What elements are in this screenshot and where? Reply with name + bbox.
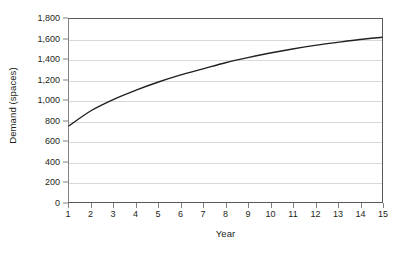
x-axis-tick-mark <box>271 203 272 208</box>
y-axis-tick-label: 600 <box>45 136 60 146</box>
x-axis-tick-mark <box>203 203 204 208</box>
x-axis-tick-mark <box>158 203 159 208</box>
x-axis-tick-label: 9 <box>245 209 250 219</box>
y-axis-tick-label: 1,000 <box>37 95 60 105</box>
x-axis-tick-mark <box>136 203 137 208</box>
chart-figure: Demand (spaces) 02004006008001,0001,2001… <box>0 0 401 254</box>
x-axis-tick-label: 2 <box>88 209 93 219</box>
x-axis-tick-label: 12 <box>310 209 320 219</box>
x-axis-tick-mark <box>226 203 227 208</box>
x-axis-tick-label: 14 <box>355 209 365 219</box>
y-axis-tick-label: 1,400 <box>37 54 60 64</box>
x-axis-tick-mark <box>316 203 317 208</box>
x-axis-tick-label: 5 <box>155 209 160 219</box>
y-axis-tick-label: 1,800 <box>37 13 60 23</box>
x-axis-tick-mark <box>361 203 362 208</box>
demand-curve-svg <box>69 19 382 202</box>
x-axis-tick-label: 10 <box>265 209 275 219</box>
x-axis-title: Year <box>68 228 383 239</box>
y-axis-tick-label: 200 <box>45 177 60 187</box>
x-axis-tick-mark <box>113 203 114 208</box>
x-axis-tick-label: 7 <box>200 209 205 219</box>
x-axis-tick-label: 13 <box>333 209 343 219</box>
y-axis-title-label: Demand (spaces) <box>7 67 18 143</box>
demand-line-series <box>69 19 382 202</box>
demand-curve-path <box>69 37 382 125</box>
x-axis-tick-mark <box>248 203 249 208</box>
x-axis-tick-label: 15 <box>378 209 388 219</box>
y-axis-title: Demand (spaces) <box>0 0 24 210</box>
x-axis-tick-label: 11 <box>288 209 297 219</box>
y-axis-tick-label: 400 <box>45 157 60 167</box>
y-axis-tick-label: 1,200 <box>37 75 60 85</box>
x-axis-tick-label: 3 <box>110 209 115 219</box>
x-axis-tick-mark <box>181 203 182 208</box>
x-axis-tick-label: 4 <box>133 209 138 219</box>
x-axis-tick-mark <box>91 203 92 208</box>
x-axis-tick-mark <box>293 203 294 208</box>
y-axis-tick-label: 800 <box>45 116 60 126</box>
plot-area <box>68 18 383 203</box>
x-axis-tick-labels: 123456789101112131415 <box>0 209 401 223</box>
x-axis-tick-mark <box>338 203 339 208</box>
x-axis-tick-mark <box>68 203 69 208</box>
x-axis-tick-mark <box>383 203 384 208</box>
x-axis-tick-label: 1 <box>65 209 70 219</box>
x-axis-tick-label: 8 <box>223 209 228 219</box>
y-axis-tick-label: 1,600 <box>37 34 60 44</box>
x-axis-tick-label: 6 <box>178 209 183 219</box>
